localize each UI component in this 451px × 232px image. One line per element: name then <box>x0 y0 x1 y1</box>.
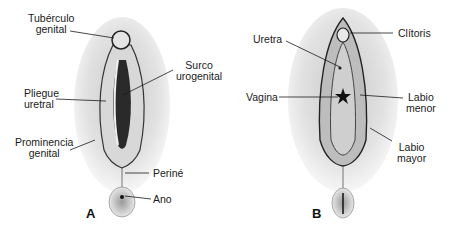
label-labio-menor: Labio menor <box>406 92 436 114</box>
panel-letter-a: A <box>86 206 95 221</box>
label-prominencia-genital: Prominencia genital <box>15 137 73 159</box>
label-labio-mayor: Labio mayor <box>397 142 426 164</box>
label-line: menor <box>406 103 436 114</box>
label-line: mayor <box>397 153 426 164</box>
label-line: uretral <box>24 99 59 110</box>
label-perine: Periné <box>153 168 183 179</box>
label-tuberculo-genital: Tubérculo genital <box>28 13 74 35</box>
label-ano: Ano <box>153 194 172 205</box>
label-vagina: Vagina <box>246 92 278 103</box>
panel-b-figure <box>288 8 398 218</box>
label-surco-urogenital: Surco urogenital <box>176 60 222 82</box>
label-line: genital <box>15 148 73 159</box>
label-line: genital <box>28 24 74 35</box>
label-uretra: Uretra <box>253 34 282 45</box>
label-line: urogenital <box>176 71 222 82</box>
panel-a-figure <box>74 17 170 217</box>
label-pliegue-uretral: Pliegue uretral <box>24 88 59 110</box>
label-clitoris: Clítoris <box>398 28 431 39</box>
panel-letter-b: B <box>312 206 321 221</box>
